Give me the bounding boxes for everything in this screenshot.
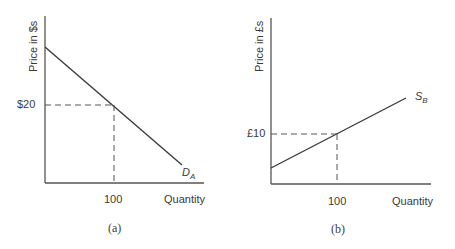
curve-label-subscript: B [422,96,427,105]
curve-label-main: D [182,166,190,178]
panel-a-y-axis-label: Price in $s [27,21,39,72]
panel-b-x-axis-label: Quantity [392,195,433,207]
panel-b-quantity-tick: 100 [328,195,346,207]
panel-b-y-axis-label: Price in £s [253,21,265,72]
curve-label-subscript: A [190,172,195,181]
panel-a-price-tick: $20 [17,98,35,110]
panel-a-caption: (a) [108,221,121,236]
panel-a-x-axis-label: Quantity [164,193,205,205]
diagram-canvas [0,0,455,249]
panel-b-graphics [271,18,431,184]
panel-b-price-tick: £10 [247,127,265,139]
supply-curve [271,98,406,168]
panel-a-quantity-tick: 100 [104,193,122,205]
panel-a-graphics [45,16,204,183]
panel-b-caption: (b) [331,222,345,237]
demand-curve-label: DA [182,166,195,181]
supply-curve-label: SB [415,90,428,105]
